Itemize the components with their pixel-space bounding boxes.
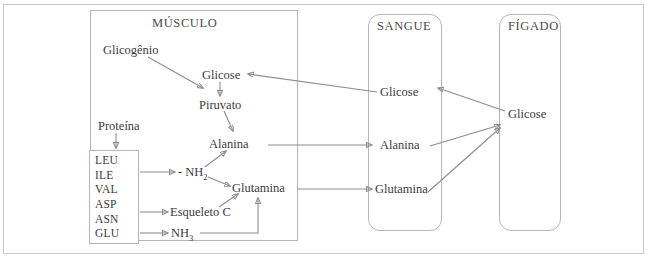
amino-acid-item-asn: ASN xyxy=(95,214,119,226)
amino-acid-item-glu: GLU xyxy=(95,228,119,240)
pathway-figure: MÚSCULO SANGUE FÍGADO Glicogênio Glicose… xyxy=(0,0,649,261)
amino-acid-list: LEU ILE VAL ASP ASN GLU xyxy=(95,155,119,240)
amino-acid-item-ile: ILE xyxy=(95,170,119,182)
arrow-liver-glucose-to-blood xyxy=(438,88,505,111)
node-blood-alanine: Alanina xyxy=(380,139,420,152)
node-muscle-pyruvate: Piruvato xyxy=(199,99,241,112)
node-muscle-glucose: Glicose xyxy=(202,69,240,82)
liver-header: FÍGADO xyxy=(508,20,559,33)
arrow-blood-alanine-to-liver xyxy=(430,125,500,146)
arrow-nh2-to-glutamine xyxy=(208,177,230,186)
arrow-nh2-to-alanine xyxy=(205,151,226,167)
node-muscle-carbon-skeleton: Esqueleto C xyxy=(170,206,231,219)
arrow-pyruvate-to-alanine xyxy=(224,111,233,131)
blood-header: SANGUE xyxy=(377,20,431,33)
muscle-header: MÚSCULO xyxy=(152,17,217,30)
node-muscle-ammonia: NH3 xyxy=(171,227,193,242)
node-muscle-glutamine: Glutamina xyxy=(232,182,285,195)
amino-group-text: - NH xyxy=(178,165,203,179)
arrow-blood-glutamine-to-liver xyxy=(428,128,500,192)
arrow-blood-glucose-to-muscle xyxy=(248,74,377,92)
node-muscle-amino-group: - NH2 xyxy=(178,166,208,181)
node-muscle-glycogen: Glicogênio xyxy=(103,44,159,57)
amino-group-subscript: 2 xyxy=(203,172,207,182)
node-muscle-protein: Proteína xyxy=(98,120,140,133)
ammonia-text: NH xyxy=(171,226,189,240)
arrow-glycogen-to-pyruvate xyxy=(148,57,203,88)
node-muscle-alanine: Alanina xyxy=(209,138,249,151)
node-blood-glucose: Glicose xyxy=(380,86,418,99)
node-blood-glutamine: Glutamina xyxy=(375,183,428,196)
amino-acid-item-asp: ASP xyxy=(95,199,119,211)
amino-acid-item-leu: LEU xyxy=(95,155,119,167)
ammonia-subscript: 3 xyxy=(189,233,193,243)
amino-acid-item-val: VAL xyxy=(95,184,119,196)
node-liver-glucose: Glicose xyxy=(508,108,546,121)
